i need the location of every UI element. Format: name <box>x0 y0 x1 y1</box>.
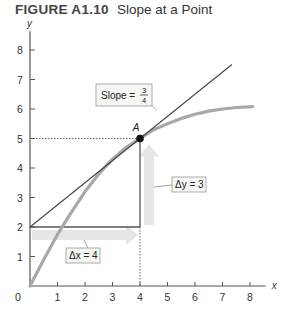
point-a-marker <box>136 135 144 143</box>
x-ticks: 012345678 <box>15 282 253 303</box>
rise-arrow <box>139 145 159 226</box>
y-tick-label: 4 <box>17 162 23 174</box>
chart: x y 012345678 12345678 Slope = 3 4 Δy = … <box>0 0 284 314</box>
slope-leader <box>152 106 157 110</box>
x-tick-label: 4 <box>137 291 143 303</box>
x-tick-label: 7 <box>220 291 226 303</box>
run-label-text: Δx = 4 <box>69 250 98 261</box>
guides <box>30 139 140 287</box>
x-tick-label: 2 <box>82 291 88 303</box>
run-leader <box>84 240 88 248</box>
x-tick-label: 3 <box>110 291 116 303</box>
y-ticks: 12345678 <box>17 44 35 263</box>
y-tick-label: 7 <box>17 74 23 86</box>
run-label: Δx = 4 <box>66 240 100 263</box>
curve-line <box>30 107 253 286</box>
y-tick-label: 8 <box>17 44 23 56</box>
y-tick-label: 5 <box>17 133 23 145</box>
slope-label-text: Slope = <box>101 90 135 101</box>
point-a-label: A <box>132 122 140 133</box>
slope-denominator: 4 <box>142 96 146 105</box>
rise-label: Δy = 3 <box>154 177 206 192</box>
x-tick-label: 0 <box>15 291 21 303</box>
rise-label-text: Δy = 3 <box>175 179 204 190</box>
x-axis-label: x <box>271 280 278 291</box>
y-tick-label: 2 <box>17 221 23 233</box>
x-tick-label: 6 <box>192 291 198 303</box>
x-tick-label: 5 <box>165 291 171 303</box>
rise-leader <box>154 185 172 187</box>
slope-numerator: 3 <box>142 86 146 95</box>
y-tick-label: 6 <box>17 103 23 115</box>
y-tick-label: 1 <box>17 251 23 263</box>
y-tick-label: 3 <box>17 192 23 204</box>
y-axis-label: y <box>26 18 33 29</box>
slope-label: Slope = 3 4 <box>96 84 157 110</box>
x-tick-label: 8 <box>247 291 253 303</box>
x-tick-label: 1 <box>55 291 61 303</box>
